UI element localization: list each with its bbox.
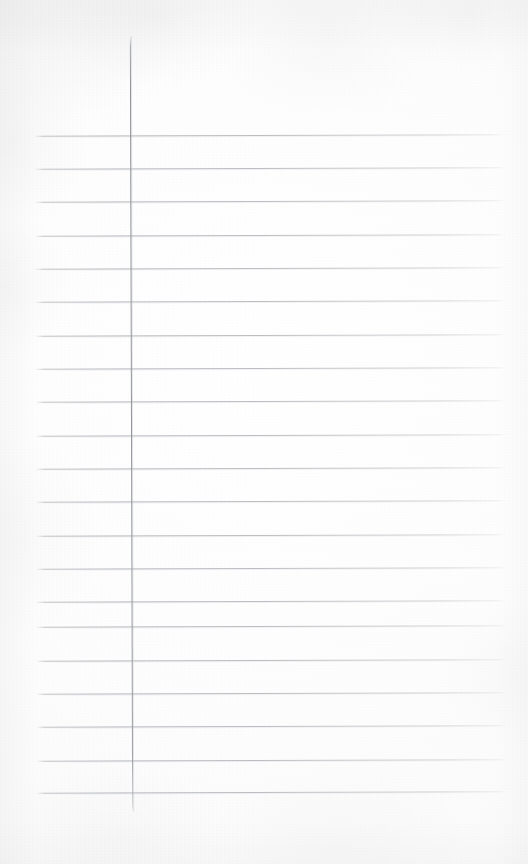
rule-line [35,367,506,369]
rule-line [36,659,507,661]
rule-line [35,567,506,569]
rule-line [35,400,506,402]
rule-line [36,725,507,727]
rule-line [35,467,506,469]
rule-line [35,267,506,269]
rule-line [36,692,507,694]
rule-line [36,759,507,761]
rule-line [36,791,507,793]
rule-line [35,434,506,436]
rule-line [35,300,506,302]
rule-line [36,600,507,602]
rule-line [34,167,505,169]
rule-line [34,134,505,136]
rule-line [35,500,506,502]
rule-line [34,200,505,202]
rule-line [36,625,507,627]
ruled-lines-group [0,0,528,864]
paper-sheet [0,0,528,864]
rule-line [35,534,506,536]
rule-line [35,334,506,336]
rule-line [34,234,505,236]
